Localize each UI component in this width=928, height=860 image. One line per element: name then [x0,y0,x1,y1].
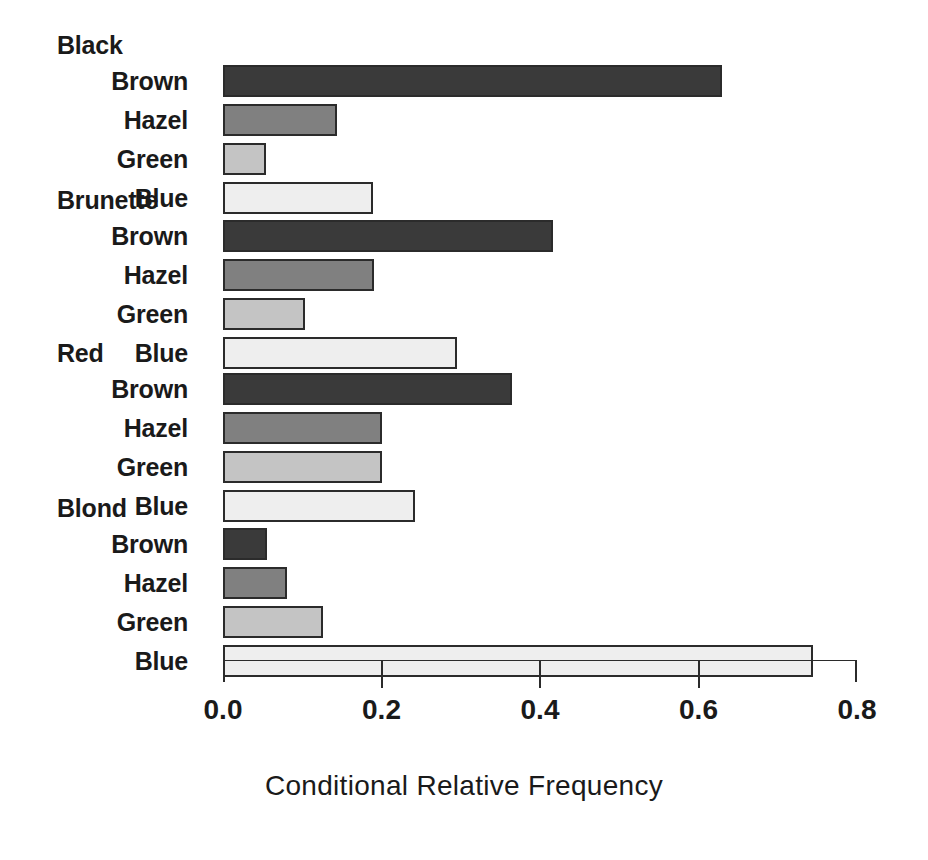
bar-red-green [223,451,382,483]
bar-label-brown: Brown [0,528,188,560]
bar-row: Hazel [0,104,928,136]
bar-brunette-hazel [223,259,374,291]
x-axis-tick-label-0.0: 0.0 [204,694,243,726]
bar-row: Hazel [0,412,928,444]
bar-row: Brown [0,220,928,252]
bar-red-hazel [223,412,382,444]
bar-label-blue: Blue [0,645,188,677]
x-axis-tick-label-0.8: 0.8 [838,694,877,726]
x-axis-tick-label-0.2: 0.2 [362,694,401,726]
group-title-blond: Blond [57,496,127,521]
x-axis-left-cap [223,660,225,682]
bar-row: Brown [0,528,928,560]
bar-blond-brown [223,528,267,560]
bar-brunette-green [223,298,305,330]
bar-row: Green [0,298,928,330]
bar-blond-blue [223,645,813,677]
bar-brunette-brown [223,220,553,252]
bar-label-green: Green [0,143,188,175]
group-title-red: Red [57,341,104,366]
bar-row: Hazel [0,567,928,599]
bar-label-hazel: Hazel [0,412,188,444]
x-axis-tick-label-0.4: 0.4 [521,694,560,726]
bar-label-brown: Brown [0,65,188,97]
bar-label-brown: Brown [0,373,188,405]
bar-label-green: Green [0,298,188,330]
x-axis-tick-0.4 [539,660,541,688]
bar-label-green: Green [0,606,188,638]
bar-blond-hazel [223,567,287,599]
bar-row: Brown [0,65,928,97]
plot-area: BlackBrownHazelGreenBlueBrunetteBrownHaz… [0,0,928,700]
bar-black-brown [223,65,722,97]
bar-red-brown [223,373,512,405]
bar-row: Green [0,606,928,638]
bar-black-blue [223,182,373,214]
bar-label-brown: Brown [0,220,188,252]
bar-row: Blue [0,337,928,369]
x-axis-title: Conditional Relative Frequency [0,770,928,802]
x-axis-right-cap [855,660,857,682]
bar-blond-green [223,606,323,638]
bar-black-green [223,143,266,175]
bar-row: Blue [0,645,928,677]
bar-label-hazel: Hazel [0,259,188,291]
bar-red-blue [223,490,415,522]
bar-label-green: Green [0,451,188,483]
bar-black-hazel [223,104,337,136]
bar-row: Green [0,143,928,175]
group-title-black: Black [57,33,123,58]
conditional-relative-frequency-chart: BlackBrownHazelGreenBlueBrunetteBrownHaz… [0,0,928,860]
bar-row: Green [0,451,928,483]
x-axis-tick-label-0.6: 0.6 [679,694,718,726]
x-axis-tick-0.6 [698,660,700,688]
bar-brunette-blue [223,337,457,369]
x-axis-tick-0.2 [381,660,383,688]
bar-row: Brown [0,373,928,405]
group-title-brunette: Brunette [57,188,158,213]
bar-row: Hazel [0,259,928,291]
bar-row: Blue [0,490,928,522]
bar-label-hazel: Hazel [0,104,188,136]
bar-label-hazel: Hazel [0,567,188,599]
